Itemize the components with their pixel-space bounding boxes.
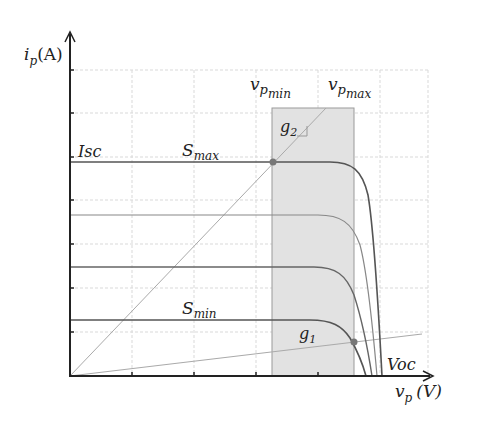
pv-iv-chart: ip(A) Isc Smax Smin vpmin vpmax g2 g1 Vo… xyxy=(0,0,481,431)
voc-label: Voc xyxy=(387,355,416,374)
smin-label: Smin xyxy=(182,298,217,321)
smax-label: Smax xyxy=(182,140,219,163)
isc-label: Isc xyxy=(77,142,102,161)
x-axis-label: vp(V) xyxy=(395,381,442,405)
vpmax-label: vpmax xyxy=(328,74,371,101)
grid xyxy=(70,70,430,376)
point-g1-smin xyxy=(351,339,358,346)
axes xyxy=(65,32,433,381)
point-g2-smax xyxy=(270,159,277,166)
y-axis-label: ip(A) xyxy=(24,44,63,68)
load-line-g1 xyxy=(70,334,422,376)
